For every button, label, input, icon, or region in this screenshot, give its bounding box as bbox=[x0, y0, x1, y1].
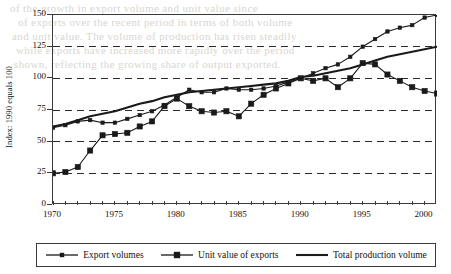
y-axis-title-text: Index: 1990 equals 100 bbox=[4, 66, 14, 148]
y-axis-tick-mark bbox=[47, 204, 52, 205]
legend-item-label: Unit value of exports bbox=[198, 250, 278, 260]
y-axis-tick-label: 125 bbox=[20, 41, 46, 50]
legend-item-label: Export volumes bbox=[83, 250, 143, 260]
legend-item[interactable]: Unit value of exports bbox=[160, 249, 278, 261]
y-axis-tick-label: 25 bbox=[20, 167, 46, 176]
legend-item[interactable]: Total production volume bbox=[295, 249, 427, 261]
data-layer bbox=[53, 15, 435, 203]
x-axis-tick-label: 1970 bbox=[32, 210, 72, 219]
x-axis-tick-label: 1995 bbox=[342, 210, 382, 219]
legend-item-label: Total production volume bbox=[333, 250, 427, 260]
y-axis-title: Index: 1990 equals 100 bbox=[2, 32, 16, 182]
x-axis-tick-label: 1985 bbox=[218, 210, 258, 219]
legend-marker-large-square-icon bbox=[160, 249, 194, 261]
legend-item[interactable]: Export volumes bbox=[45, 249, 143, 261]
y-axis-tick-label: 150 bbox=[20, 9, 46, 18]
x-axis-tick-label: 1990 bbox=[280, 210, 320, 219]
x-axis-tick-label: 1980 bbox=[156, 210, 196, 219]
y-axis-tick-label: 100 bbox=[20, 72, 46, 81]
y-axis-tick-label: 0 bbox=[20, 199, 46, 208]
chart-figure: Index: 1990 equals 100 0255075100125150 … bbox=[0, 0, 451, 274]
chart-legend: Export volumesUnit value of exportsTotal… bbox=[36, 243, 436, 267]
x-axis-tick-label: 2000 bbox=[404, 210, 444, 219]
legend-marker-none-icon bbox=[295, 249, 329, 261]
x-axis-tick-label: 1975 bbox=[94, 210, 134, 219]
legend-marker-small-square-icon bbox=[45, 249, 79, 261]
y-axis-tick-label: 50 bbox=[20, 136, 46, 145]
y-axis-tick-label: 75 bbox=[20, 104, 46, 113]
plot-area bbox=[52, 14, 436, 204]
